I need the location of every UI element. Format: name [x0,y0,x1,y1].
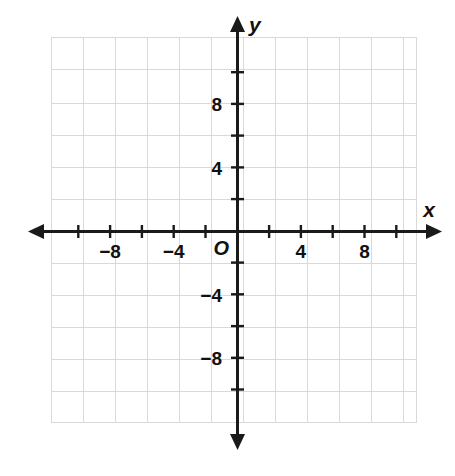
x-tick-label-neg4: −4 [163,241,185,262]
coordinate-plane-figure: −8 −4 4 8 8 4 −4 −8 O y x [0,0,455,476]
y-tick-label-pos8: 8 [211,94,222,115]
coordinate-plane-canvas: −8 −4 4 8 8 4 −4 −8 O y x [0,0,455,476]
x-axis-label: x [422,198,436,221]
x-tick-label-neg8: −8 [99,241,121,262]
y-tick-label-pos4: 4 [211,158,222,179]
x-tick-label-pos8: 8 [359,241,370,262]
origin-label: O [213,237,229,259]
y-tick-label-neg8: −8 [200,348,222,369]
y-tick-label-neg4: −4 [200,285,222,306]
y-axis-label: y [248,13,262,36]
x-tick-label-pos4: 4 [296,241,307,262]
